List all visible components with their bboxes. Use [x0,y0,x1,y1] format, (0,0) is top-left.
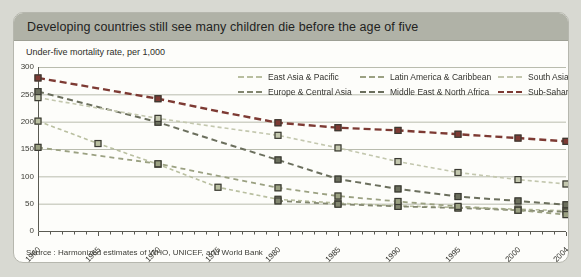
legend-line-swatch [238,91,262,93]
legend-line-swatch [360,76,384,78]
legend-item: Latin America & Caribbean [360,72,498,82]
legend-label: East Asia & Pacific [268,72,339,82]
chart-title: Developing countries still see many chil… [27,20,418,34]
chart-title-bar: Developing countries still see many chil… [14,13,568,41]
page: { "page": { "background": "#d8d9d2" }, "… [0,0,581,277]
legend-line-swatch [360,91,384,93]
legend-line-swatch [498,76,522,78]
legend-item: South Asia [498,72,569,82]
chart-card: Developing countries still see many chil… [13,12,569,263]
legend-label: South Asia [528,72,569,82]
legend-label: Latin America & Caribbean [390,72,491,82]
legend-label: Sub-Saharan Africa [528,87,569,97]
legend-item: East Asia & Pacific [238,72,360,82]
legend-item: Sub-Saharan Africa [498,87,569,97]
legend-line-swatch [238,76,262,78]
legend-line-swatch [498,91,522,93]
legend-label: Europe & Central Asia [268,87,352,97]
source-note: Source : Harmonized estimates of WHO, UN… [26,248,263,257]
legend-item: Europe & Central Asia [238,87,360,97]
chart-legend: East Asia & PacificEurope & Central Asia… [238,69,569,99]
legend-label: Middle East & North Africa [390,87,489,97]
legend-item: Middle East & North Africa [360,87,498,97]
